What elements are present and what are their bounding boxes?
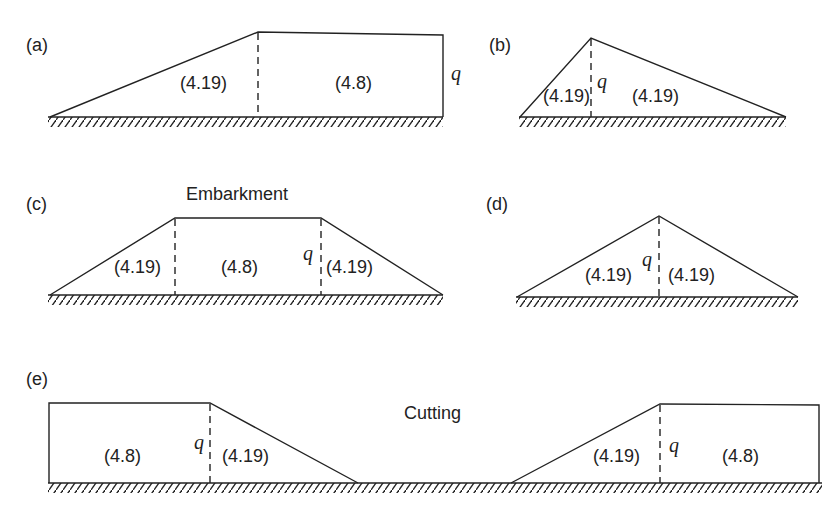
q-label: q bbox=[597, 70, 607, 93]
panel-d-label: (d) bbox=[486, 194, 508, 214]
load-diagram: (a) (4.19) (4.8) q (b) (4.19) (4.19) q (… bbox=[0, 0, 839, 522]
panel-d: (d) (4.19) (4.19) q bbox=[486, 194, 798, 307]
ground-hatch bbox=[516, 297, 798, 307]
region-label: (4.19) bbox=[180, 73, 227, 93]
triangle-outline bbox=[517, 216, 798, 297]
region-label: (4.8) bbox=[335, 73, 372, 93]
panel-c-label: (c) bbox=[26, 194, 47, 214]
q-label: q bbox=[669, 434, 679, 457]
region-label: (4.19) bbox=[114, 257, 161, 277]
q-label: q bbox=[194, 431, 204, 454]
ground-hatch bbox=[48, 295, 443, 305]
panel-e: (e) Cutting (4.8) (4.19) q (4.19) (4.8) … bbox=[26, 369, 822, 493]
region-label: (4.8) bbox=[722, 446, 759, 466]
region-label: (4.19) bbox=[326, 257, 373, 277]
region-label: (4.19) bbox=[222, 446, 269, 466]
embankment-outline bbox=[50, 32, 443, 117]
ground-hatch bbox=[48, 483, 822, 493]
region-label: (4.8) bbox=[104, 446, 141, 466]
right-cut-outline bbox=[511, 404, 819, 483]
embarkment-title: Embarkment bbox=[186, 184, 288, 204]
region-label: (4.19) bbox=[543, 86, 590, 106]
panel-a-label: (a) bbox=[26, 35, 48, 55]
q-label: q bbox=[451, 62, 461, 85]
region-label: (4.19) bbox=[593, 446, 640, 466]
region-label: (4.19) bbox=[632, 86, 679, 106]
region-label: (4.19) bbox=[668, 265, 715, 285]
region-label: (4.19) bbox=[585, 265, 632, 285]
panel-a: (a) (4.19) (4.8) q bbox=[26, 32, 461, 127]
ground-hatch bbox=[519, 117, 786, 127]
ground-hatch bbox=[48, 117, 443, 127]
q-label: q bbox=[642, 248, 652, 271]
panel-e-label: (e) bbox=[26, 369, 48, 389]
panel-b-label: (b) bbox=[489, 35, 511, 55]
panel-c: (c) Embarkment (4.19) (4.8) (4.19) q bbox=[26, 184, 443, 305]
region-label: (4.8) bbox=[221, 257, 258, 277]
panel-b: (b) (4.19) (4.19) q bbox=[489, 35, 786, 127]
q-label: q bbox=[303, 242, 313, 265]
cutting-title: Cutting bbox=[404, 403, 461, 423]
